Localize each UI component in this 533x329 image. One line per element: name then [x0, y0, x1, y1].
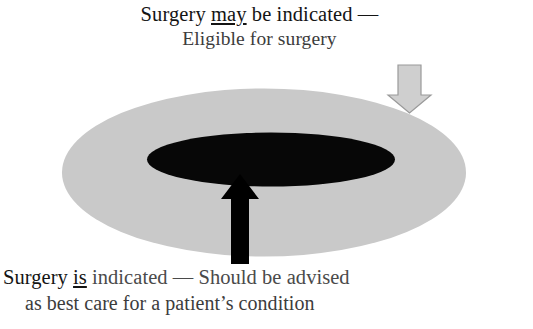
top-callout-line-1-after: be indicated —	[247, 3, 379, 25]
bottom-callout-line-1: Surgery is indicated — Should be advised	[3, 266, 533, 290]
top-callout-text: Surgery may be indicated — Eligible for …	[0, 3, 533, 50]
bottom-callout-line-1-emphasis: is	[73, 266, 87, 288]
hollow-down-arrow-icon	[388, 65, 431, 113]
top-callout-line-1-emphasis: may	[211, 3, 247, 25]
bottom-callout-line-2: as best care for a patient’s condition	[3, 292, 533, 315]
top-callout-line-1: Surgery may be indicated —	[0, 3, 519, 27]
bottom-callout-line-1-after: indicated — Should be advised	[87, 266, 350, 288]
top-callout-line-2: Eligible for surgery	[0, 28, 519, 51]
diagram-canvas: Surgery may be indicated — Eligible for …	[0, 0, 533, 329]
inner-zone-ellipse	[147, 133, 395, 187]
top-callout-line-1-before: Surgery	[141, 3, 211, 25]
bottom-callout-line-1-before: Surgery	[3, 266, 73, 288]
bottom-callout-text: Surgery is indicated — Should be advised…	[0, 266, 533, 315]
